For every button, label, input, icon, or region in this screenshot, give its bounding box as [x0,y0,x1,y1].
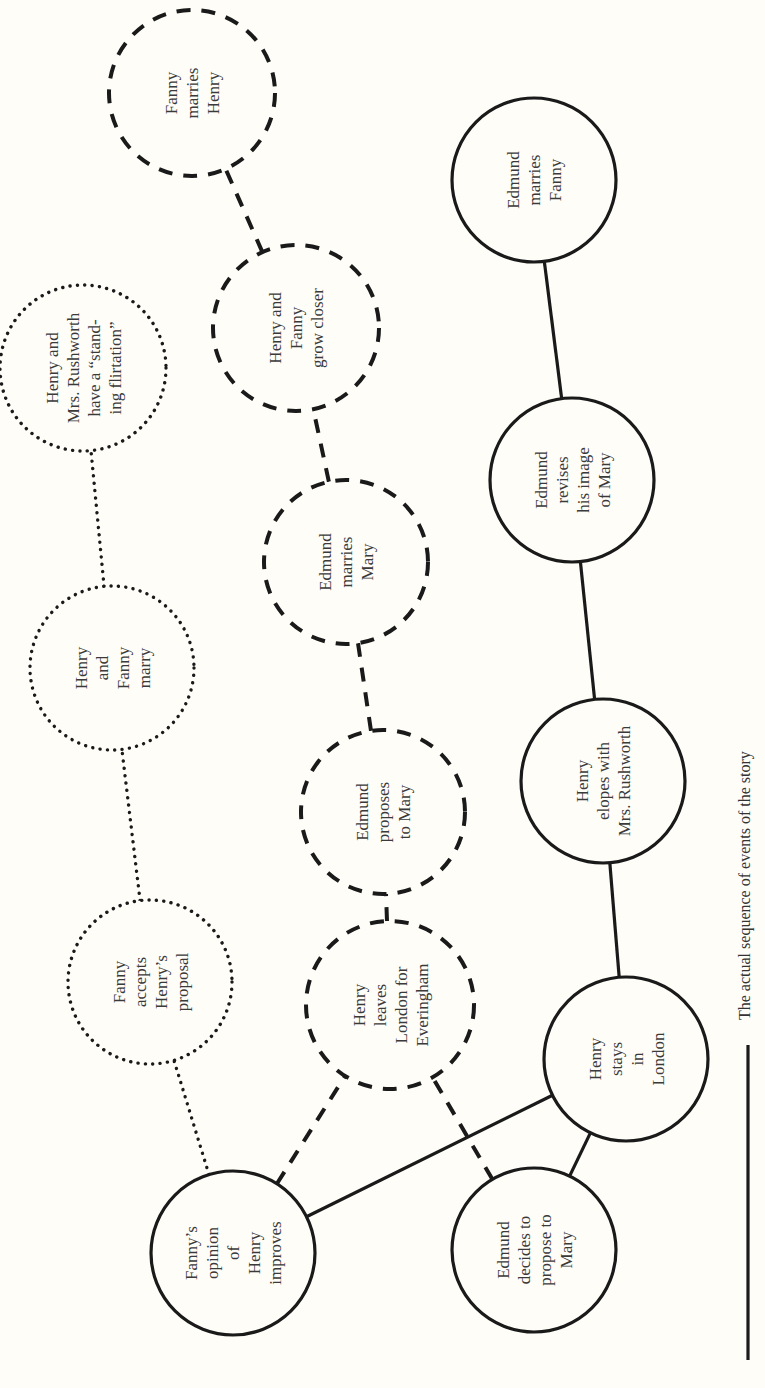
node-label-line: Fanny [162,71,181,114]
node-label-line: stays [607,1042,626,1076]
edge-henry_fanny_closer-to-fanny_marries_henry [226,169,263,252]
edge-edmund_marries_mary-to-henry_fanny_closer [313,409,329,482]
node-label-line: Fanny’s [182,1226,201,1280]
node-label-line: revises [553,456,572,503]
node-label-line: leaves [371,984,390,1026]
node-label-line: ing flirtation” [106,321,125,414]
node-label-line: Edmund [532,451,551,509]
node-label-line: Fanny [546,158,565,201]
node-label-line: to Mary [395,784,414,839]
node-fanny-accepts: FannyacceptsHenry’sproposal [68,900,232,1064]
node-label-line: Henry [573,759,592,802]
node-label-line: Fanny [287,306,306,349]
node-henry-stays: HenrystaysinLondon [544,977,708,1141]
node-label-line: marries [525,155,544,206]
node-label-line: marries [183,68,202,119]
node-label-line: Mary [557,1231,576,1268]
node-label-line: decides to [515,1216,534,1284]
node-edmund-decides: Edmunddecides topropose toMary [452,1168,616,1332]
edge-fanny_opinion-to-fanny_accepts [174,1060,209,1174]
edge-edmund_proposes-to-edmund_marries_mary [358,643,371,731]
node-label-line: Mrs. Rushworth [615,725,634,836]
node-label-line: proposes [374,782,393,842]
node-label-line: London [649,1032,668,1085]
node-label-line: marries [337,537,356,588]
node-label-line: London for [392,966,411,1043]
node-label-line: propose to [536,1214,555,1285]
node-edmund-marries-mary: EdmundmarriesMary [264,480,428,644]
node-henry-fanny-closer: Henry andFannygrow closer [213,245,379,411]
edge-henry_stays-to-edmund_decides [570,1133,591,1176]
diagram-canvas: Fanny’sopinionofHenryimprovesHenrystaysi… [0,0,765,1388]
legend-solid-line-label: The actual sequence of events of the sto… [736,751,754,1020]
node-label-line: Henry’s [152,955,171,1009]
edge-henry_stays-to-henry_elopes [610,863,619,978]
edge-henry_leaves-to-edmund_proposes [386,894,387,921]
node-edmund-proposes: Edmundproposesto Mary [301,730,465,894]
node-label-line: Henry and [43,332,62,404]
node-label-line: his image [574,447,593,513]
node-label-line: marry [135,647,154,688]
legend: The actual sequence of events of the sto… [736,751,754,1360]
edge-henry_elopes-to-edmund_revises [580,562,594,700]
node-edmund-marries-fanny: EdmundmarriesFanny [452,98,616,262]
node-henry-rushworth-flirt: Henry andMrs. Rushworthhave a “stand-ing… [0,285,166,451]
node-label-line: have a “stand- [85,319,104,417]
edge-edmund_revises-to-edmund_marries_fanny [544,261,561,398]
node-label-line: opinion [203,1227,222,1279]
node-label-line: of Mary [595,452,614,508]
node-label-line: Everingham [413,963,432,1046]
node-label-line: Henry [350,983,369,1026]
node-label-line: Edmund [504,151,523,209]
node-label-line: Henry and [266,292,285,364]
edge-fanny_opinion-to-henry_leaves [277,1076,345,1184]
node-label-line: of [224,1246,243,1261]
node-label-line: accepts [131,957,150,1007]
node-label-line: Edmund [353,783,372,841]
node-label-line: grow closer [308,288,327,368]
story-sequence-diagram: Fanny’sopinionofHenryimprovesHenrystaysi… [0,0,765,1388]
node-label-line: elopes with [594,742,613,820]
node-label-line: proposal [173,952,192,1011]
node-label-line: Henry [586,1037,605,1080]
node-label-line: Fanny [114,646,133,689]
node-label-line: Fanny [110,960,129,1003]
edge-henry_fanny_marry-to-henry_rushworth_flirt [91,451,104,587]
node-henry-fanny-marry: HenryandFannymarry [30,586,194,750]
node-label-line: and [93,655,112,680]
node-edmund-revises: Edmundreviseshis imageof Mary [490,398,654,562]
node-fanny-marries-henry: FannymarriesHenry [109,10,275,176]
node-label-line: improves [266,1221,285,1284]
node-label-line: Edmund [316,533,335,591]
node-label-line: Henry [72,646,91,689]
node-label-line: in [628,1052,647,1066]
nodes-layer: Fanny’sopinionofHenryimprovesHenrystaysi… [0,10,708,1335]
edge-fanny_accepts-to-henry_fanny_marry [122,749,140,900]
node-label-line: Mary [358,543,377,580]
node-label-line: Mrs. Rushworth [64,312,83,423]
node-henry-leaves: HenryleavesLondon forEveringham [306,921,474,1089]
node-label-line: Henry [245,1231,264,1274]
node-label-line: Henry [204,71,223,114]
node-fanny-opinion: Fanny’sopinionofHenryimproves [151,1171,315,1335]
node-henry-elopes: Henryelopes withMrs. Rushworth [521,699,685,863]
node-label-line: Edmund [494,1221,513,1279]
